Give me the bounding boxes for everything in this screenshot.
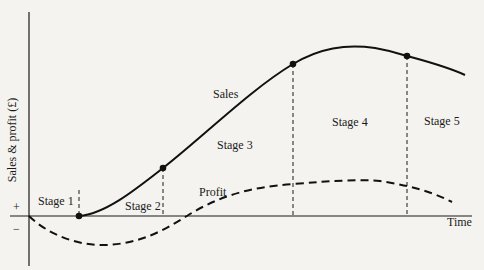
stage-boundaries: [79, 56, 407, 216]
stage2-label: Stage 2: [125, 199, 161, 213]
point-stage5-start: [404, 53, 411, 60]
product-life-cycle-chart: Sales & profit (£) + − Time Sales Profit…: [0, 0, 484, 270]
stage3-label: Stage 3: [217, 138, 253, 152]
profit-label: Profit: [199, 185, 227, 199]
minus-sign: −: [13, 222, 20, 236]
plus-sign: +: [13, 200, 20, 214]
stage-points: [76, 53, 411, 220]
point-stage2-start: [76, 213, 83, 220]
stage4-label: Stage 4: [332, 115, 368, 129]
point-stage3-start: [160, 165, 167, 172]
sales-label: Sales: [213, 87, 239, 101]
x-axis-label: Time: [447, 215, 472, 229]
point-stage4-start: [290, 61, 297, 68]
stage5-label: Stage 5: [424, 114, 460, 128]
y-axis-label: Sales & profit (£): [5, 98, 19, 182]
stage1-label: Stage 1: [38, 194, 74, 208]
